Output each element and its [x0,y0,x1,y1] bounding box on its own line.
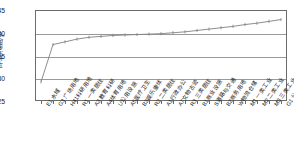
x-tick [77,101,78,104]
x-tick [281,101,282,104]
x-tick [161,101,162,104]
x-tick [173,101,174,104]
data-line [41,20,281,82]
x-tick [125,101,126,104]
x-tick [245,101,246,104]
x-tick [149,101,150,104]
x-tick [89,101,90,104]
x-tick [209,101,210,104]
x-tick [233,101,234,104]
x-tick [137,101,138,104]
x-tick [101,101,102,104]
x-tick [221,101,222,104]
x-tick [41,101,42,104]
x-tick [113,101,114,104]
x-tick [197,101,198,104]
x-tick [257,101,258,104]
chart-container: 平均温度/℃ 2530354045 E1 水域G3 广场用地H41科研用地R1 … [0,0,294,164]
x-axis-labels: E1 水域G3 广场用地H41科研用地R1 一类居住A3 教育科研A4体育用地U… [35,101,287,164]
x-tick [185,101,186,104]
x-tick [53,101,54,104]
x-tick [65,101,66,104]
x-tick [269,101,270,104]
